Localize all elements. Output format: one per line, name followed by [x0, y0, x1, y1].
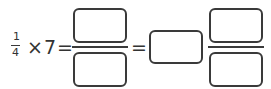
- mixed-numerator-box[interactable]: [209, 8, 263, 43]
- mixed-denominator-box[interactable]: [209, 52, 263, 87]
- multiply-operator: ×: [27, 37, 43, 57]
- answer-numerator-box[interactable]: [73, 8, 127, 43]
- equals-sign-2: =: [131, 37, 147, 57]
- mixed-fraction-bar: [208, 46, 264, 48]
- answer-denominator-box[interactable]: [73, 52, 127, 87]
- multiplier: 7: [44, 37, 56, 57]
- given-numerator: 1: [13, 31, 20, 42]
- answer-fraction-bar: [72, 46, 128, 48]
- given-denominator: 4: [12, 47, 19, 58]
- equals-sign-1: =: [57, 37, 73, 57]
- whole-number-box[interactable]: [149, 30, 203, 64]
